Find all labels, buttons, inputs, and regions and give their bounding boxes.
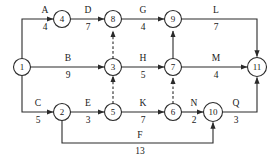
edge-path-Q (223, 78, 258, 113)
edge-name: B (65, 53, 71, 63)
edge-duration: 4 (141, 22, 146, 32)
node-7[interactable]: 7 (165, 59, 182, 76)
edge-duration: 9 (66, 70, 71, 80)
node-label: 5 (111, 107, 116, 117)
edge-duration: 2 (192, 115, 197, 125)
node-label: 10 (209, 107, 219, 117)
node-label: 1 (20, 62, 25, 72)
node-label: 9 (171, 14, 176, 24)
edge-name: H (140, 53, 147, 63)
edge-duration: 7 (214, 22, 219, 32)
edge-duration: 4 (214, 70, 219, 80)
edge-name: F (137, 130, 142, 140)
edge-name: G (140, 5, 147, 15)
node-5[interactable]: 5 (105, 104, 122, 121)
edge-duration: 7 (141, 115, 146, 125)
node-label: 7 (171, 62, 176, 72)
edge-duration: 4 (43, 22, 48, 32)
edge-duration: 13 (135, 146, 145, 156)
edge-name: N (191, 98, 198, 108)
node-4[interactable]: 4 (54, 11, 71, 28)
edge-name: L (213, 5, 219, 15)
activity-network-diagram: 1 4 8 9 3 7 11 2 (0, 0, 278, 161)
node-label: 2 (60, 107, 65, 117)
edge-duration: 5 (141, 70, 146, 80)
node-9[interactable]: 9 (165, 11, 182, 28)
node-label: 3 (111, 62, 116, 72)
edge-name: E (85, 98, 91, 108)
edge-duration: 3 (86, 115, 91, 125)
node-11[interactable]: 11 (248, 58, 267, 77)
edge-duration: 7 (86, 22, 91, 32)
edge-path-A (22, 19, 53, 59)
network-canvas: 1 4 8 9 3 7 11 2 (0, 0, 278, 161)
node-2[interactable]: 2 (54, 104, 71, 121)
node-3[interactable]: 3 (105, 59, 122, 76)
edge-path-L (182, 19, 258, 57)
node-label: 11 (253, 62, 262, 72)
node-label: 8 (111, 14, 116, 24)
edge-duration: 5 (36, 115, 41, 125)
edge-name: A (42, 5, 49, 15)
edge-duration: 3 (234, 115, 239, 125)
node-label: 4 (60, 14, 65, 24)
edge-name: Q (233, 98, 240, 108)
edge-name: D (85, 5, 92, 15)
node-8[interactable]: 8 (105, 11, 122, 28)
node-label: 6 (171, 107, 176, 117)
node-10[interactable]: 10 (204, 103, 223, 122)
edge-name: C (35, 98, 41, 108)
node-1[interactable]: 1 (14, 59, 31, 76)
edge-name: M (212, 53, 221, 63)
edge-name: K (140, 98, 147, 108)
node-6[interactable]: 6 (165, 104, 182, 121)
